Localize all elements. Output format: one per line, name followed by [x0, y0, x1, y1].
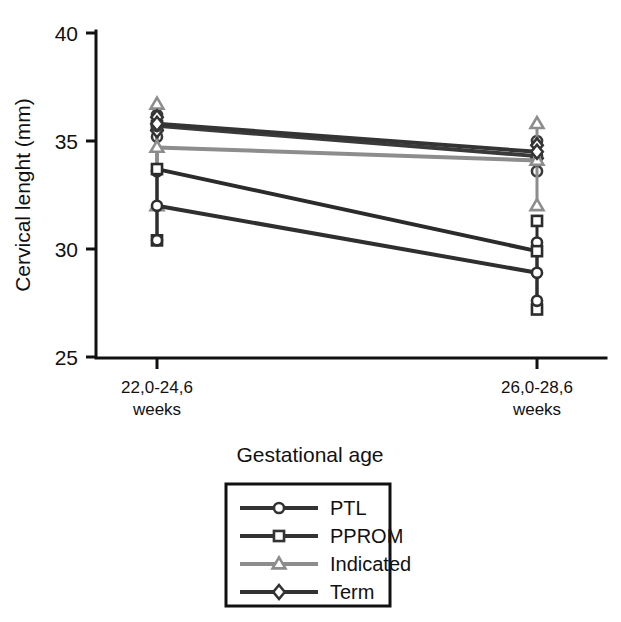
- y-tick-label-35: 35: [55, 130, 78, 153]
- x-category-2-line2: weeks: [512, 400, 561, 419]
- legend: PTLPPROMIndicatedTerm: [226, 484, 411, 606]
- x-axis-title: Gestational age: [236, 443, 383, 466]
- chart-figure: 40 35 30 25 Cervical lenght (mm) 22,0-24…: [0, 0, 621, 622]
- y-tick-label-30: 30: [55, 238, 78, 261]
- legend-label-ptl: PTL: [330, 497, 367, 519]
- legend-label-indicated: Indicated: [330, 553, 411, 575]
- x-category-1-line1: 22,0-24,6: [121, 378, 193, 397]
- y-tick-label-40: 40: [55, 22, 78, 45]
- y-axis-title: Cervical lenght (mm): [11, 98, 34, 292]
- legend-label-pprom: PPROM: [330, 525, 403, 547]
- x-category-1-line2: weeks: [132, 400, 181, 419]
- legend-label-term: Term: [330, 581, 374, 603]
- x-category-2-line1: 26,0-28,6: [501, 378, 573, 397]
- y-tick-label-25: 25: [55, 346, 78, 369]
